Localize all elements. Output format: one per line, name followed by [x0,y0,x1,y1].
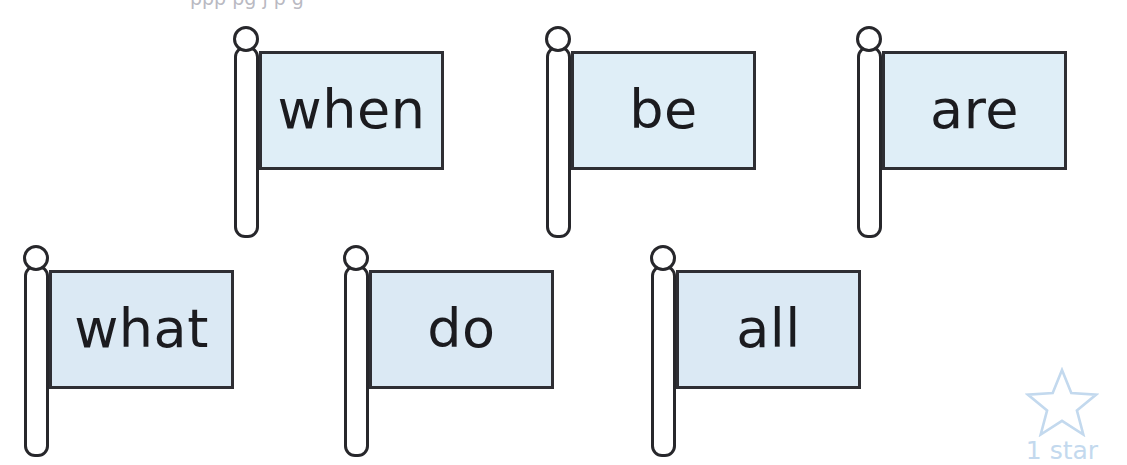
flag-pole-finial-icon [650,245,676,271]
flag-word: all [736,302,801,356]
flag-card: do [338,245,554,457]
star-outline-icon [1025,367,1099,437]
flag-word: be [629,83,698,137]
flag-banner: do [369,270,554,389]
clipped-header-text-fragment: ppp pg j p g [190,0,304,9]
flag-card: what [18,245,234,457]
flag-pole [344,265,369,457]
flag-pole [857,46,882,238]
flag-banner: be [571,51,756,170]
star-rating-label: 1 star [1003,438,1121,463]
flag-word: are [930,83,1019,137]
flag-pole-finial-icon [343,245,369,271]
flag-card: all [645,245,861,457]
flag-word: when [278,83,426,137]
flag-card: are [851,26,1067,238]
flag-pole-finial-icon [233,26,259,52]
flag-word: do [427,302,495,356]
flag-pole [546,46,571,238]
flag-pole [234,46,259,238]
flag-card: be [540,26,756,238]
flag-word: what [74,302,209,356]
flag-pole-finial-icon [545,26,571,52]
flag-pole [651,265,676,457]
clipped-header-text: ppp pg j p g [0,0,1127,9]
star-rating: 1 star [1003,367,1121,463]
flag-banner: all [676,270,861,389]
flag-pole-finial-icon [23,245,49,271]
flag-banner: are [882,51,1067,170]
flag-banner: what [49,270,234,389]
flag-banner: when [259,51,444,170]
flag-card: when [228,26,444,238]
flag-pole-finial-icon [856,26,882,52]
flag-pole [24,265,49,457]
